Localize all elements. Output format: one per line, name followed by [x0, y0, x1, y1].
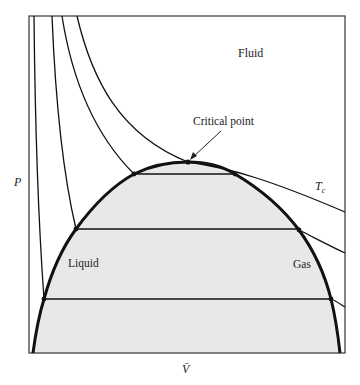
- region-label-gas: Gas: [293, 258, 311, 270]
- tie-point: [329, 297, 334, 302]
- isotherm-4-left: [34, 16, 44, 299]
- region-label-fluid: Fluid: [238, 46, 263, 60]
- critical-point-arrow: [193, 131, 221, 157]
- tie-point: [132, 172, 137, 177]
- tie-point: [233, 172, 238, 177]
- tie-point: [42, 297, 47, 302]
- tie-point: [74, 227, 79, 232]
- critical-point-label: Critical point: [193, 115, 255, 128]
- region-label-liquid: Liquid: [68, 257, 99, 270]
- x-axis-label: V̄: [182, 362, 191, 376]
- critical-isotherm-label: Tc: [315, 179, 326, 195]
- isotherm-2-left: [62, 16, 134, 174]
- tie-point: [297, 228, 302, 233]
- y-axis-label: P: [13, 175, 22, 189]
- isotherm-3-left: [52, 16, 76, 229]
- arrowhead-icon: [190, 152, 197, 160]
- critical-point-marker: [185, 159, 190, 164]
- tc-subscript: c: [322, 186, 326, 195]
- pv-phase-diagram: Fluid Critical point Liquid Gas P V̄ Tc: [0, 0, 360, 385]
